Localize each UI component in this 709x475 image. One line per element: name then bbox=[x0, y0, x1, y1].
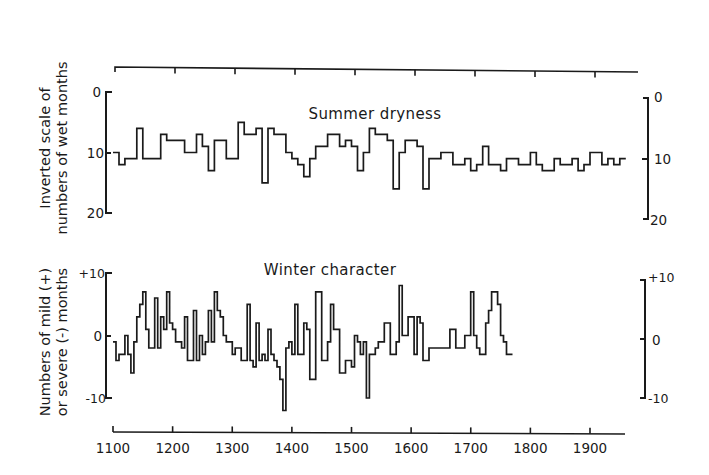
winter-ytick-plus10: +10 bbox=[79, 266, 105, 281]
summer-left-y-axis bbox=[106, 92, 112, 213]
winter-character-series bbox=[113, 286, 513, 411]
x-tick-label: 1200 bbox=[155, 440, 189, 456]
x-tick-label: 1100 bbox=[96, 440, 130, 456]
winter-right-y-axis bbox=[640, 280, 645, 398]
summer-ytick-10: 10 bbox=[87, 145, 104, 161]
summer-right-y-axis bbox=[642, 98, 648, 219]
winter-right-ytick-0: 0 bbox=[652, 332, 661, 348]
x-tick-label: 1900 bbox=[573, 440, 607, 456]
winter-ylabel-line1: Numbers of mild (+) bbox=[37, 268, 53, 416]
summer-dryness-series bbox=[113, 122, 626, 189]
summer-right-ytick-10: 10 bbox=[654, 151, 671, 167]
summer-right-ytick-0: 0 bbox=[654, 89, 663, 105]
winter-right-ytick-minus10: -10 bbox=[648, 391, 668, 406]
summer-ytick-0: 0 bbox=[92, 84, 101, 100]
x-tick-label: 1700 bbox=[454, 440, 488, 456]
top-axis bbox=[115, 67, 638, 78]
winter-ytick-0: 0 bbox=[93, 328, 102, 344]
winter-left-y-axis bbox=[106, 273, 112, 398]
x-tick-label: 1500 bbox=[334, 440, 368, 456]
x-axis bbox=[113, 426, 625, 434]
summer-panel: Inverted scale of numbers of wet months … bbox=[37, 61, 671, 234]
summer-title: Summer dryness bbox=[309, 105, 442, 123]
summer-right-ytick-20: 20 bbox=[650, 212, 667, 228]
winter-right-ytick-plus10: +10 bbox=[648, 270, 674, 285]
summer-ylabel-line1: Inverted scale of bbox=[37, 86, 53, 208]
x-axis-labels: 110012001300140015001600170018001900 bbox=[96, 440, 607, 456]
summer-ytick-20: 20 bbox=[87, 205, 104, 221]
chart-figure: Inverted scale of numbers of wet months … bbox=[0, 0, 709, 475]
winter-ytick-minus10: -10 bbox=[86, 391, 106, 406]
x-tick-label: 1300 bbox=[215, 440, 249, 456]
x-tick-label: 1800 bbox=[513, 440, 547, 456]
winter-title: Winter character bbox=[264, 261, 397, 279]
winter-ylabel-line2: or severe (-) months bbox=[54, 268, 70, 416]
summer-ylabel-line2: numbers of wet months bbox=[54, 61, 70, 234]
x-tick-label: 1600 bbox=[394, 440, 428, 456]
x-tick-label: 1400 bbox=[275, 440, 309, 456]
winter-panel: Numbers of mild (+) or severe (-) months… bbox=[37, 261, 674, 416]
